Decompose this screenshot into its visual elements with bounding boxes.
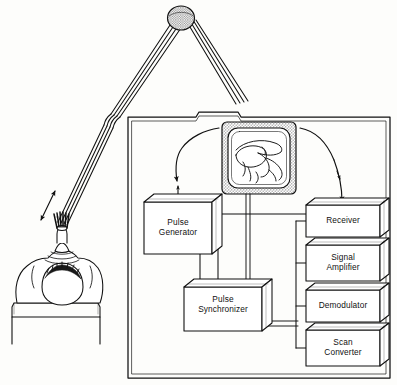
block-demodulator <box>306 283 389 322</box>
block-pulse-generator <box>144 194 222 254</box>
arm-motion-arrow <box>41 191 55 220</box>
signal-bus <box>296 221 306 348</box>
display-monitor <box>222 122 296 194</box>
block-scan-converter <box>306 323 389 366</box>
block-signal-amplifier <box>306 238 389 281</box>
receive-signal-path <box>300 128 342 201</box>
receiver-to-synchronizer <box>218 214 306 285</box>
block-receiver <box>306 198 389 237</box>
ultrasound-system-diagram: Pulse Generator Pulse Synchronizer Recei… <box>0 0 397 385</box>
exam-table <box>12 303 100 344</box>
patient <box>16 250 103 305</box>
transmit-signal-path <box>176 128 219 200</box>
diagram-artwork <box>0 0 397 385</box>
block-pulse-synchronizer <box>184 279 272 331</box>
articulated-arm <box>58 6 248 225</box>
